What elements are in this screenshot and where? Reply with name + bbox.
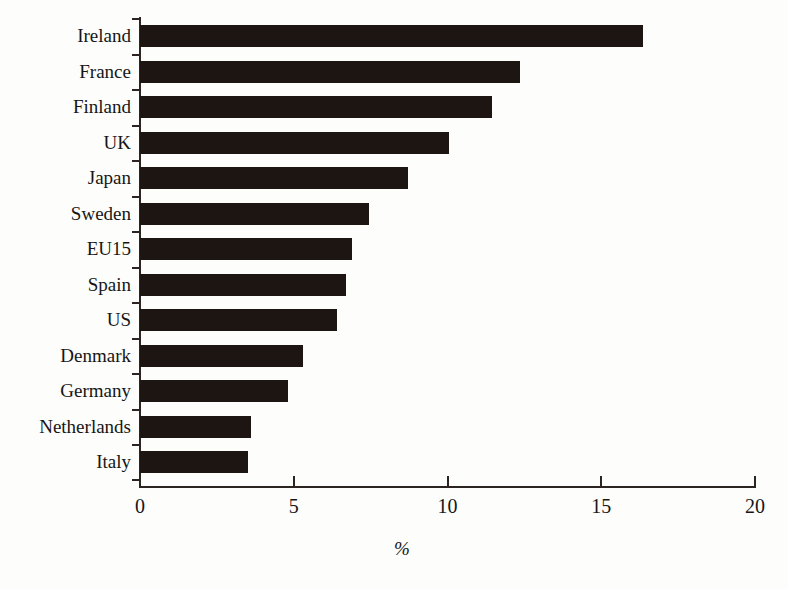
category-label-finland: Finland (0, 96, 131, 118)
category-label-us: US (0, 309, 131, 331)
x-tick-label-10: 10 (418, 495, 478, 518)
bar-fill (140, 61, 520, 83)
category-label-sweden: Sweden (0, 203, 131, 225)
x-tick (139, 476, 141, 488)
bar-fill (140, 132, 449, 154)
bar-fill (140, 380, 288, 402)
category-label-eu15: EU15 (0, 238, 131, 260)
bar-fill (140, 96, 492, 118)
bar-fill (140, 416, 251, 438)
x-tick-label-0: 0 (110, 495, 170, 518)
y-tick (132, 444, 140, 446)
x-axis-title: % (0, 538, 788, 560)
category-label-spain: Spain (0, 274, 131, 296)
y-tick (132, 89, 140, 91)
y-tick (132, 409, 140, 411)
category-label-netherlands: Netherlands (0, 416, 131, 438)
category-label-germany: Germany (0, 380, 131, 402)
category-label-japan: Japan (0, 167, 131, 189)
x-tick (447, 476, 449, 488)
y-tick (132, 338, 140, 340)
bar-fill (140, 203, 369, 225)
bar-fill (140, 451, 248, 473)
y-tick (132, 54, 140, 56)
bar-fill (140, 25, 643, 47)
category-label-ireland: Ireland (0, 25, 131, 47)
bar-fill (140, 309, 337, 331)
x-tick-label-5: 5 (264, 495, 324, 518)
y-tick (132, 231, 140, 233)
category-label-france: France (0, 61, 131, 83)
x-tick (754, 476, 756, 488)
x-tick (600, 476, 602, 488)
x-axis-title-text: % (394, 538, 410, 559)
category-label-denmark: Denmark (0, 345, 131, 367)
y-tick (132, 302, 140, 304)
y-tick (132, 373, 140, 375)
x-tick-label-15: 15 (571, 495, 631, 518)
y-tick (132, 160, 140, 162)
y-tick (132, 196, 140, 198)
x-tick-label-20: 20 (725, 495, 785, 518)
bar-fill (140, 167, 408, 189)
y-tick (132, 267, 140, 269)
x-tick (293, 476, 295, 488)
y-tick (132, 18, 140, 20)
category-label-uk: UK (0, 132, 131, 154)
bar-fill (140, 345, 303, 367)
chart-page: IrelandFranceFinlandUKJapanSwedenEU15Spa… (0, 0, 788, 589)
bar-fill (140, 238, 352, 260)
bar-fill (140, 274, 346, 296)
category-label-italy: Italy (0, 451, 131, 473)
y-tick (132, 125, 140, 127)
